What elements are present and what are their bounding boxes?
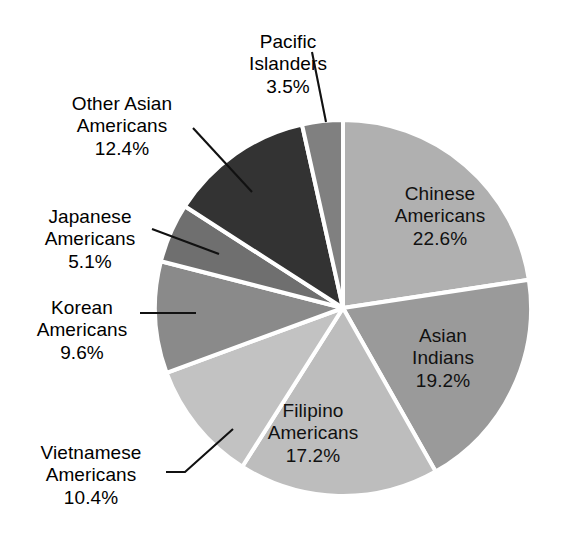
slice-label-line2: Indians [378, 347, 508, 369]
slice-label-filipino-americans: Filipino Americans 17.2% [243, 400, 383, 467]
slice-label-line2: Americans [48, 115, 196, 137]
slice-label-pacific-islanders: Pacific Islanders 3.5% [222, 31, 354, 98]
slice-label-line2: Islanders [222, 53, 354, 75]
slice-label-line1: Other Asian [48, 93, 196, 115]
slice-label-percent: 3.5% [222, 76, 354, 98]
pie-chart: Chinese Americans 22.6% Asian Indians 19… [0, 0, 574, 544]
slice-label-percent: 22.6% [360, 228, 520, 250]
slice-label-line2: Americans [24, 319, 140, 341]
slice-label-other-asian-americans: Other Asian Americans 12.4% [48, 93, 196, 160]
slice-label-line1: Pacific [222, 31, 354, 53]
slice-label-vietnamese-americans: Vietnamese Americans 10.4% [16, 442, 166, 509]
slice-label-percent: 9.6% [24, 342, 140, 364]
slice-label-line1: Japanese [28, 206, 152, 228]
slice-label-line2: Americans [16, 464, 166, 486]
slice-label-line2: Americans [243, 422, 383, 444]
slice-label-percent: 10.4% [16, 487, 166, 509]
slice-label-line1: Korean [24, 297, 140, 319]
slice-label-percent: 5.1% [28, 251, 152, 273]
slice-label-line2: Americans [360, 205, 520, 227]
slice-label-line1: Vietnamese [16, 442, 166, 464]
slice-label-chinese-americans: Chinese Americans 22.6% [360, 183, 520, 250]
slice-label-percent: 17.2% [243, 445, 383, 467]
slice-label-line1: Filipino [243, 400, 383, 422]
slice-label-asian-indians: Asian Indians 19.2% [378, 325, 508, 392]
slice-label-line1: Chinese [360, 183, 520, 205]
slice-label-japanese-americans: Japanese Americans 5.1% [28, 206, 152, 273]
slice-label-percent: 19.2% [378, 370, 508, 392]
slice-label-korean-americans: Korean Americans 9.6% [24, 297, 140, 364]
slice-label-line2: Americans [28, 228, 152, 250]
slice-label-line1: Asian [378, 325, 508, 347]
slice-label-percent: 12.4% [48, 138, 196, 160]
